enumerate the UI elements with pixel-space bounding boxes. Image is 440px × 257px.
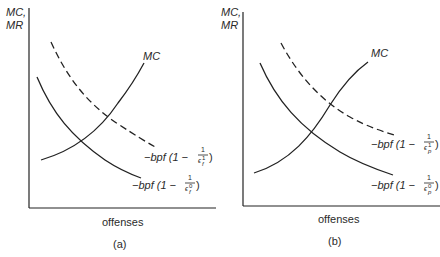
mr1-label: −bpf (1 − 1 ϵ 1 p ) xyxy=(371,133,439,154)
svg-text:1: 1 xyxy=(188,174,192,181)
x-axis-label: offenses xyxy=(318,213,360,225)
y-axis-label-line1: MC, xyxy=(6,6,26,18)
svg-text:): ) xyxy=(435,179,439,191)
svg-text:−bpf (1 −: −bpf (1 − xyxy=(371,179,416,191)
svg-text:−bpf (1 −: −bpf (1 − xyxy=(132,179,177,191)
y-axis-label-line2: MR xyxy=(6,19,23,31)
y-axis-label-line2: MR xyxy=(221,19,238,31)
svg-text:−bpf (1 −: −bpf (1 − xyxy=(371,138,416,150)
svg-text:p: p xyxy=(427,189,432,195)
panel-b: MC, MR MC −bpf (1 − 1 ϵ 1 p ) −bpf (1 − … xyxy=(221,6,440,247)
y-axis-label-line1: MC, xyxy=(221,6,241,18)
svg-text:1: 1 xyxy=(427,174,431,181)
mc-label: MC xyxy=(371,47,388,59)
mr1-curve xyxy=(51,42,157,148)
panel-caption: (b) xyxy=(328,235,341,247)
mc-label: MC xyxy=(143,50,160,62)
svg-text:1: 1 xyxy=(427,133,431,140)
x-axis-label: offenses xyxy=(102,216,144,228)
figure: MC, MR MC −bpf (1 − 1 ϵ 1 f ) −bpf (1 − … xyxy=(0,0,440,257)
panel-a: MC, MR MC −bpf (1 − 1 ϵ 1 f ) −bpf (1 − … xyxy=(6,6,216,250)
svg-text:): ) xyxy=(209,151,213,163)
svg-text:p: p xyxy=(427,148,432,154)
svg-text:f: f xyxy=(189,189,192,195)
mc-curve xyxy=(41,63,144,160)
mr0-curve xyxy=(260,63,393,175)
mr1-label: −bpf (1 − 1 ϵ 1 f ) xyxy=(144,146,213,167)
mr0-label: −bpf (1 − 1 ϵ 0 p ) xyxy=(371,174,439,195)
panel-caption: (a) xyxy=(113,238,126,250)
svg-text:−bpf (1 −: −bpf (1 − xyxy=(144,151,189,163)
mr0-label: −bpf (1 − 1 ϵ 0 f ) xyxy=(132,174,200,195)
svg-text:f: f xyxy=(202,161,205,167)
svg-text:1: 1 xyxy=(201,146,205,153)
svg-text:): ) xyxy=(196,179,200,191)
svg-text:): ) xyxy=(435,138,439,150)
